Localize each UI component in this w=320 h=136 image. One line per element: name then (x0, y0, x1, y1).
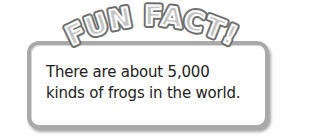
fact-line-1: There are about 5,000 (46, 62, 261, 83)
fact-line-2: kinds of frogs in the world. (46, 83, 261, 104)
svg-text:FUN FACT!: FUN FACT! (61, 0, 240, 50)
fun-fact-banner: FUN FACT! FUN FACT! (60, 0, 240, 50)
banner-title: FUN FACT! (61, 0, 240, 50)
fact-text: There are about 5,000 kinds of frogs in … (46, 62, 261, 104)
